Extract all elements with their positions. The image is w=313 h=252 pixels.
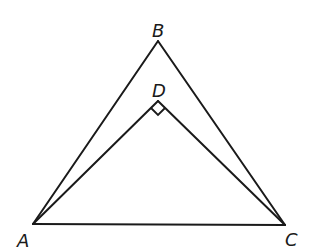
label-d: D	[152, 80, 166, 101]
geometry-diagram: B D A C	[0, 0, 313, 252]
segment-ab	[33, 41, 158, 224]
segment-ac	[33, 224, 285, 225]
right-angle-marker-icon	[151, 108, 165, 115]
segment-dc	[158, 101, 285, 225]
label-b: B	[152, 20, 164, 41]
segment-ad	[33, 101, 158, 224]
label-c: C	[285, 229, 298, 250]
label-a: A	[16, 230, 29, 251]
segment-bc	[158, 41, 285, 225]
